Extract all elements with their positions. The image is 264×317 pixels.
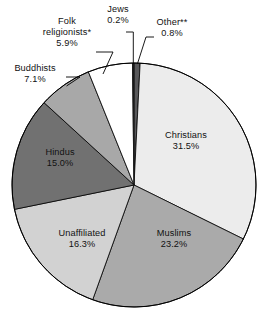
pie-label-folk-religionists-name-line2: religionists*: [28, 27, 106, 38]
pie-label-christians-value: 31.5%: [155, 141, 217, 152]
pie-label-buddhists-name: Buddhists: [4, 63, 66, 74]
pie-label-hindus-value: 15.0%: [32, 158, 88, 169]
pie-label-buddhists-value: 7.1%: [4, 74, 66, 85]
pie-label-christians-name: Christians: [155, 130, 217, 141]
pie-slices: [12, 63, 256, 307]
pie-label-other: Other** 0.8%: [145, 17, 199, 39]
pie-label-folk-religionists-name-line1: Folk: [28, 16, 106, 27]
leader-line-jews: [126, 32, 133, 64]
pie-label-folk-religionists-value: 5.9%: [28, 38, 106, 49]
pie-label-hindus-name: Hindus: [32, 147, 88, 158]
pie-label-muslims: Muslims 23.2%: [147, 228, 201, 250]
pie-label-hindus: Hindus 15.0%: [32, 147, 88, 169]
pie-label-unaffiliated-value: 16.3%: [48, 239, 116, 250]
pie-label-christians: Christians 31.5%: [155, 130, 217, 152]
pie-chart: Jews 0.2% Other** 0.8% Folk religionists…: [0, 0, 264, 317]
pie-label-other-value: 0.8%: [145, 28, 199, 39]
pie-label-muslims-name: Muslims: [147, 228, 201, 239]
pie-label-buddhists: Buddhists 7.1%: [4, 63, 66, 85]
pie-label-unaffiliated-name: Unaffiliated: [48, 228, 116, 239]
pie-label-muslims-value: 23.2%: [147, 239, 201, 250]
pie-label-unaffiliated: Unaffiliated 16.3%: [48, 228, 116, 250]
pie-label-other-name: Other**: [145, 17, 199, 28]
leader-line-other: [138, 37, 155, 64]
pie-label-jews-name: Jews: [95, 4, 141, 15]
pie-label-folk-religionists: Folk religionists* 5.9%: [28, 16, 106, 49]
